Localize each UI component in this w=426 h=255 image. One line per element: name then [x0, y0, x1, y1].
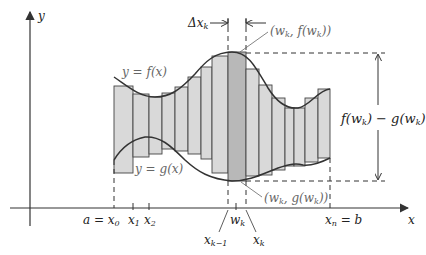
- strip-16: [318, 89, 330, 158]
- tick-label-x2: x2: [144, 214, 156, 228]
- tick-label-xk: xk: [253, 234, 265, 248]
- strip-14: [294, 108, 305, 166]
- strip-15: [305, 98, 318, 162]
- strip-1: [114, 86, 133, 173]
- strip-7: [201, 67, 212, 159]
- bottom-point-label: (wk, g(wk)): [264, 192, 328, 206]
- tick-marks: [133, 203, 236, 210]
- upper-curve-label: y = f(x): [122, 66, 167, 78]
- strip-3: [149, 97, 162, 154]
- tick-label-x1: x1: [128, 214, 140, 228]
- strip-5: [175, 87, 188, 151]
- tick-label-xk-minus-1: xk−1: [204, 234, 227, 248]
- y-axis-label: y: [38, 10, 45, 22]
- tick-label-wk: wk: [230, 214, 245, 228]
- leader-xk-1: [219, 210, 228, 232]
- tick-label-a-x0: a = x0: [83, 214, 120, 228]
- strip-6: [188, 77, 201, 154]
- strip-13: [285, 108, 294, 166]
- strip-10: [246, 69, 259, 176]
- height-label: f(wk) − g(wk): [341, 112, 426, 127]
- leader-bottom-point: [241, 182, 262, 197]
- top-point-label: (wk, f(wk)): [270, 25, 331, 39]
- leader-xk: [246, 210, 256, 232]
- strip-2: [133, 94, 149, 157]
- delta-x-label: Δxk: [188, 17, 208, 31]
- x-axis-label: x: [408, 214, 415, 226]
- lower-curve-label: y = g(x): [135, 163, 183, 175]
- leader-top-point: [240, 32, 268, 52]
- strip-11: [259, 85, 272, 175]
- strip-12: [272, 98, 285, 170]
- strip-4: [162, 93, 175, 149]
- tick-label-xn-b: xn = b: [325, 214, 362, 228]
- strip-8: [212, 56, 228, 173]
- strip-k-highlighted: [228, 52, 246, 181]
